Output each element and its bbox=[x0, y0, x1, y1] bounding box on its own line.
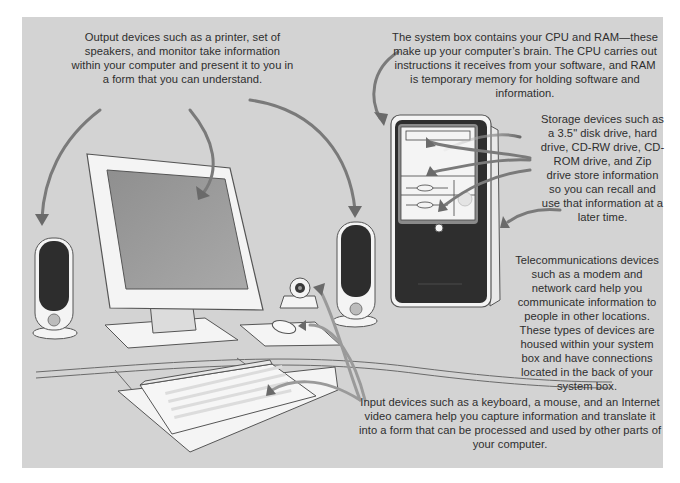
right-speaker bbox=[333, 222, 377, 327]
left-speaker bbox=[33, 238, 77, 339]
system-box-annotation: The system box contains your CPU and RAM… bbox=[390, 30, 660, 100]
mouse bbox=[240, 318, 340, 346]
system-box bbox=[391, 115, 500, 307]
output-devices-annotation: Output devices such as a printer, set of… bbox=[70, 30, 295, 86]
storage-devices-annotation: Storage devices such as a 3.5" disk driv… bbox=[540, 112, 665, 224]
telecommunications-devices-annotation: Telecommunications devices such as a mod… bbox=[512, 253, 662, 393]
input-devices-annotation: Input devices such as a keyboard, a mous… bbox=[357, 395, 663, 451]
monitor bbox=[87, 154, 263, 348]
keyboard bbox=[118, 360, 338, 452]
web-camera bbox=[280, 278, 318, 308]
